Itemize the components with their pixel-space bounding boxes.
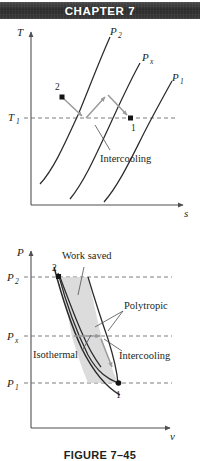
pv-y-axis-label: P <box>16 246 24 258</box>
ts-curve-P1 <box>104 81 172 202</box>
pv-y-tick-Px: P x <box>6 330 19 345</box>
pv-x-axis-label: v <box>170 430 175 442</box>
ts-arrow-seg-3 <box>108 95 127 115</box>
ts-y-axis-label: T <box>17 26 24 38</box>
ts-y-tick-base: T <box>8 111 15 123</box>
chapter-header-bar: CHAPTER 7 <box>0 2 200 19</box>
pv-y-tick-P1: P 1 <box>6 377 19 392</box>
ts-y-tick-T1: T 1 <box>8 111 20 126</box>
ts-curve-label-P1-base: P <box>171 71 179 83</box>
ts-annotation-intercooling: Intercooling <box>100 153 152 164</box>
ts-process-path <box>63 95 127 118</box>
pv-annotation-isothermal: Isothermal <box>33 349 78 360</box>
ts-x-axis-label: s <box>184 207 188 219</box>
pv-state-label-1: 1 <box>116 390 121 400</box>
pv-y-tick-Px-base: P <box>6 330 14 342</box>
ts-y-tick-sub: 1 <box>16 117 20 126</box>
ts-curve-label-P2-sub: 2 <box>118 31 122 40</box>
pv-y-tick-P1-sub: 1 <box>15 383 19 392</box>
pv-y-tick-P2-base: P <box>6 271 14 283</box>
pv-state-point-2 <box>56 274 61 279</box>
pv-y-tick-Px-sub: x <box>14 336 19 345</box>
ts-curve-label-P2-base: P <box>109 25 117 37</box>
pv-annotation-work-saved: Work saved <box>62 250 112 261</box>
ts-curve-Px <box>70 63 140 199</box>
pv-state-label-2: 2 <box>52 263 57 273</box>
ts-state-label-1: 1 <box>131 123 136 133</box>
pv-polytropic-leader-b <box>108 311 123 331</box>
ts-curve-label-Px-sub: x <box>149 57 154 66</box>
ts-arrow-seg-1 <box>63 98 82 116</box>
ts-state-point-1 <box>128 116 133 121</box>
ts-state-label-2: 2 <box>55 82 60 92</box>
ts-curve-label-P2: P 2 <box>109 25 122 40</box>
pv-annotation-intercooling: Intercooling <box>119 350 171 361</box>
ts-curve-label-P1: P 1 <box>171 71 184 86</box>
pv-y-tick-P2: P 2 <box>6 271 19 286</box>
chapter-title: CHAPTER 7 <box>65 5 136 17</box>
pv-state-point-1 <box>116 380 122 386</box>
figure-page: CHAPTER 7 T s T 1 <box>0 0 200 461</box>
pv-y-tick-P2-sub: 2 <box>15 277 19 286</box>
ts-arrow-seg-2 <box>86 97 105 118</box>
ts-diagram: T s T 1 P 2 P x P 1 <box>0 19 200 227</box>
ts-curve-label-Px-base: P <box>141 51 149 63</box>
ts-state-point-2 <box>60 95 65 100</box>
pv-annotation-polytropic: Polytropic <box>124 300 168 311</box>
ts-curve-label-Px: P x <box>141 51 154 66</box>
ts-curve-label-P1-sub: 1 <box>180 77 184 86</box>
pv-y-tick-P1-base: P <box>6 377 14 389</box>
figure-caption: FIGURE 7–45 <box>0 449 200 461</box>
pv-diagram: P v P 2 P x P 1 <box>0 227 200 442</box>
